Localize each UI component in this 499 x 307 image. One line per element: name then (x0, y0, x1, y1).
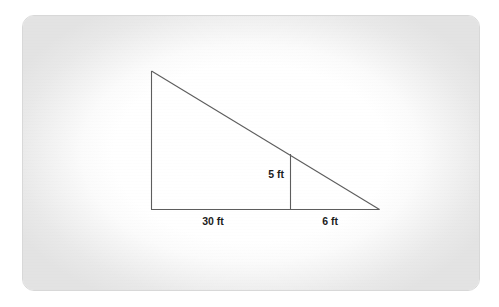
diagram-canvas: 5 ft 30 ft 6 ft (0, 0, 499, 307)
figure-layer: 5 ft 30 ft 6 ft (23, 16, 479, 290)
triangle-hypotenuse (152, 71, 380, 210)
label-base-left: 30 ft (202, 215, 224, 227)
scanned-page-card: 5 ft 30 ft 6 ft (22, 15, 480, 291)
label-base-right: 6 ft (322, 215, 338, 227)
label-interior-vertical: 5 ft (268, 168, 284, 180)
right-triangle-figure: 5 ft 30 ft 6 ft (23, 16, 480, 291)
